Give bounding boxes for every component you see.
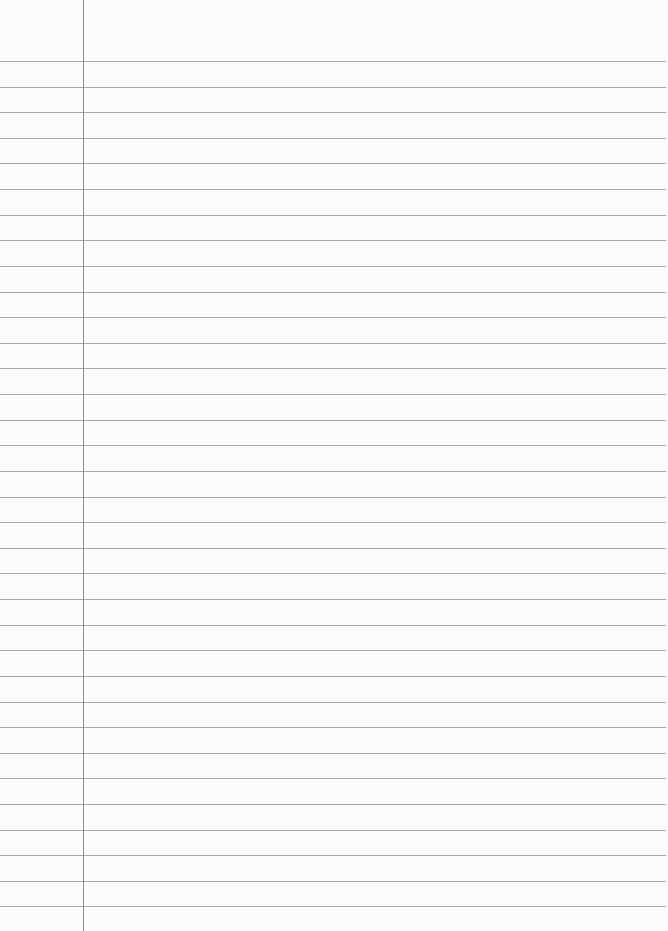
ruled-line [0, 906, 666, 907]
ruled-line [0, 163, 666, 164]
ruled-line [0, 727, 666, 728]
ruled-line [0, 317, 666, 318]
ruled-line [0, 753, 666, 754]
ruled-line [0, 497, 666, 498]
ruled-line [0, 266, 666, 267]
ruled-line [0, 420, 666, 421]
ruled-line [0, 240, 666, 241]
ruled-line [0, 650, 666, 651]
ruled-line [0, 87, 666, 88]
ruled-line [0, 778, 666, 779]
ruled-line [0, 804, 666, 805]
ruled-line [0, 522, 666, 523]
ruled-line [0, 702, 666, 703]
ruled-line [0, 138, 666, 139]
ruled-line [0, 573, 666, 574]
ruled-line [0, 548, 666, 549]
ruled-line [0, 61, 666, 62]
ruled-line [0, 855, 666, 856]
ruled-line [0, 625, 666, 626]
ruled-line [0, 343, 666, 344]
ruled-line [0, 676, 666, 677]
ruled-line [0, 471, 666, 472]
ruled-line [0, 292, 666, 293]
ruled-line [0, 189, 666, 190]
ruled-line [0, 368, 666, 369]
ruled-line [0, 112, 666, 113]
ruled-line [0, 830, 666, 831]
ruled-line [0, 599, 666, 600]
notebook-page [0, 0, 668, 931]
ruled-line [0, 215, 666, 216]
margin-line [83, 0, 84, 931]
ruled-line [0, 394, 666, 395]
ruled-line [0, 445, 666, 446]
ruled-line [0, 881, 666, 882]
